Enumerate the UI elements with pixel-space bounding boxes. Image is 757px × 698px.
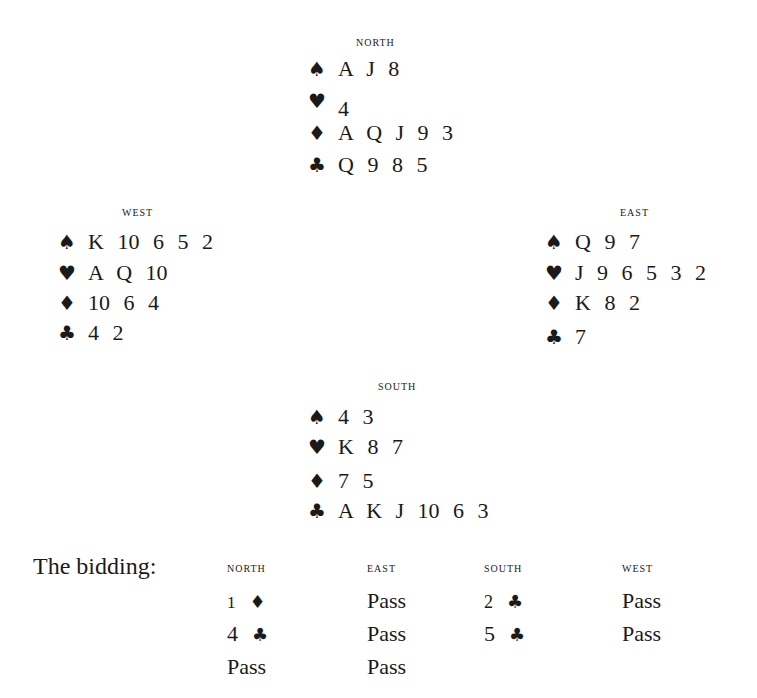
north-clubs: ♣Q 9 8 5 — [308, 150, 427, 180]
bid-header-east: EAST — [367, 556, 487, 584]
spade-icon: ♠ — [545, 227, 575, 257]
west-spades-cards: K 10 6 5 2 — [88, 227, 213, 257]
diamond-icon: ♦ — [308, 466, 338, 496]
bid-header-south: SOUTH — [484, 556, 604, 584]
bid-column-south: SOUTH 2♣ 5♣ — [484, 556, 604, 650]
club-icon: ♣ — [545, 322, 575, 352]
west-label: WEST — [122, 204, 153, 220]
spade-icon: ♠ — [308, 402, 338, 432]
bid-column-west: WEST Pass Pass — [622, 556, 742, 650]
west-hearts-cards: A Q 10 — [88, 258, 168, 288]
south-spades: ♠4 3 — [308, 402, 374, 432]
bid-south-2: 5♣ — [484, 617, 604, 650]
bid-east-3: Pass — [367, 650, 487, 683]
spade-icon: ♠ — [308, 54, 338, 84]
bid-column-north: NORTH 1♦ 4♣ Pass — [227, 556, 347, 683]
bid-header-north: NORTH — [227, 556, 347, 584]
heart-icon: ♥ — [308, 432, 338, 462]
south-diamonds: ♦7 5 — [308, 466, 374, 496]
diamond-icon: ♦ — [58, 288, 88, 318]
diamond-icon: ♦ — [308, 118, 338, 148]
south-spades-cards: 4 3 — [338, 402, 374, 432]
south-label: SOUTH — [378, 378, 416, 394]
north-hearts: ♥4 — [308, 86, 349, 116]
south-clubs-cards: A K J 10 6 3 — [338, 496, 489, 526]
bid-west-1: Pass — [622, 584, 742, 617]
east-hearts-cards: J 9 6 5 3 2 — [575, 258, 706, 288]
east-diamonds-cards: K 8 2 — [575, 288, 640, 318]
north-label: NORTH — [356, 34, 395, 50]
east-diamonds: ♦K 8 2 — [545, 288, 640, 318]
diamond-icon: ♦ — [545, 288, 575, 318]
north-diamonds: ♦A Q J 9 3 — [308, 118, 453, 148]
west-clubs: ♣4 2 — [58, 318, 124, 348]
diamond-icon: ♦ — [250, 585, 266, 618]
south-hearts: ♥K 8 7 — [308, 432, 403, 462]
club-icon: ♣ — [509, 618, 525, 651]
club-icon: ♣ — [308, 150, 338, 180]
north-spades-cards: A J 8 — [338, 54, 399, 84]
west-hand: WEST ♠K 10 6 5 2 ♥A Q 10 ♦10 6 4 ♣4 2 — [58, 200, 278, 370]
north-spades: ♠A J 8 — [308, 54, 399, 84]
north-diamonds-cards: A Q J 9 3 — [338, 118, 453, 148]
north-clubs-cards: Q 9 8 5 — [338, 150, 427, 180]
club-icon: ♣ — [252, 618, 268, 651]
bidding-label: The bidding: — [33, 553, 156, 580]
east-hearts: ♥J 9 6 5 3 2 — [545, 258, 706, 288]
south-diamonds-cards: 7 5 — [338, 466, 374, 496]
bid-east-1: Pass — [367, 584, 487, 617]
west-diamonds-cards: 10 6 4 — [88, 288, 159, 318]
club-icon: ♣ — [58, 318, 88, 348]
bid-west-2: Pass — [622, 617, 742, 650]
west-hearts: ♥A Q 10 — [58, 258, 168, 288]
heart-icon: ♥ — [308, 86, 338, 116]
bid-north-1: 1♦ — [227, 584, 347, 617]
bid-column-east: EAST Pass Pass Pass — [367, 556, 487, 683]
bid-east-2: Pass — [367, 617, 487, 650]
south-hearts-cards: K 8 7 — [338, 432, 403, 462]
bid-north-3: Pass — [227, 650, 347, 683]
east-hand: EAST ♠Q 9 7 ♥J 9 6 5 3 2 ♦K 8 2 ♣7 — [545, 200, 757, 370]
bid-north-2: 4♣ — [227, 617, 347, 650]
club-icon: ♣ — [308, 496, 338, 526]
east-spades: ♠Q 9 7 — [545, 227, 640, 257]
south-clubs: ♣A K J 10 6 3 — [308, 496, 489, 526]
east-label: EAST — [620, 204, 649, 220]
west-diamonds: ♦10 6 4 — [58, 288, 159, 318]
east-clubs-cards: 7 — [575, 322, 586, 352]
bid-header-west: WEST — [622, 556, 742, 584]
north-hand: NORTH ♠A J 8 ♥4 ♦A Q J 9 3 ♣Q 9 8 5 — [308, 30, 508, 200]
heart-icon: ♥ — [545, 258, 575, 288]
west-clubs-cards: 4 2 — [88, 318, 124, 348]
east-spades-cards: Q 9 7 — [575, 227, 640, 257]
spade-icon: ♠ — [58, 227, 88, 257]
south-hand: SOUTH ♠4 3 ♥K 8 7 ♦7 5 ♣A K J 10 6 3 — [308, 372, 548, 542]
bid-south-1: 2♣ — [484, 584, 604, 617]
west-spades: ♠K 10 6 5 2 — [58, 227, 213, 257]
east-clubs: ♣7 — [545, 322, 586, 352]
heart-icon: ♥ — [58, 258, 88, 288]
club-icon: ♣ — [507, 585, 523, 618]
